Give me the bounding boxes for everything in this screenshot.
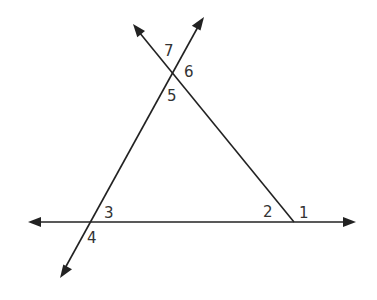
- angle-label-5: 5: [167, 87, 177, 105]
- angle-label-6: 6: [184, 63, 194, 81]
- angle-label-7: 7: [164, 42, 174, 60]
- arrowhead-upper-left-icon: [133, 24, 145, 37]
- angle-label-3: 3: [104, 204, 114, 222]
- angle-label-2: 2: [263, 203, 273, 221]
- arrowhead-right-icon: [343, 217, 356, 227]
- right-line: [139, 32, 294, 222]
- angle-label-4: 4: [87, 229, 97, 247]
- arrowhead-upper-right-icon: [192, 17, 204, 31]
- triangle-diagram: 1 2 3 4 5 6 7: [0, 0, 377, 300]
- arrowhead-left-icon: [28, 217, 41, 227]
- left-line: [64, 25, 199, 270]
- angle-label-1: 1: [299, 204, 309, 222]
- arrowhead-lower-left-icon: [60, 264, 72, 278]
